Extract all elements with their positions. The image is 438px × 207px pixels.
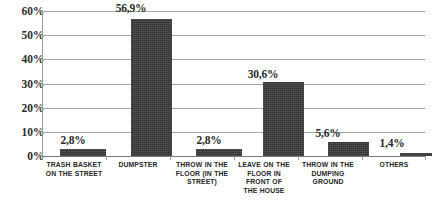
value-label-trash-basket: 2,8%: [41, 134, 105, 146]
y-axis-tick-label: 60%: [4, 5, 44, 17]
x-axis-tick: [42, 156, 43, 160]
y-axis-tick-label: 50%: [4, 29, 44, 41]
value-label-others: 1,4%: [360, 137, 424, 149]
bar-chart: 60% 50% 40% 30% 20% 10% 0% 2,8% 56,9% 2,…: [0, 0, 438, 207]
value-label-leave-on-the-floor: 30,6%: [231, 68, 295, 80]
gridline-30: [42, 84, 425, 85]
x-axis-tick: [425, 156, 426, 160]
y-axis-tick-label: 40%: [4, 53, 44, 65]
gridline-20: [42, 108, 425, 109]
bar-others: [400, 153, 432, 156]
value-label-dumpster: 56,9%: [99, 2, 163, 14]
category-label-throw-in-the-floor: THROW IN THE FLOOR (IN THE STREET): [172, 161, 232, 187]
x-axis-tick: [298, 156, 299, 160]
category-label-dumpster: DUMPSTER: [108, 161, 168, 170]
gridline-10: [42, 132, 425, 133]
bar-leave-on-the-floor-in-front-of-the-house: [263, 82, 304, 156]
y-axis-tick-label: 10%: [4, 126, 44, 138]
category-label-leave-on-the-floor: LEAVE ON THE FLOOR IN FRONT OF THE HOUSE: [238, 161, 290, 195]
x-axis-tick: [234, 156, 235, 160]
x-axis-tick: [106, 156, 107, 160]
y-axis-tick-label: 20%: [4, 102, 44, 114]
category-label-throw-in-the-dumping-ground: THROW IN THE DUMPING GROUND: [301, 161, 355, 187]
gridline-50: [42, 35, 425, 36]
y-axis-tick-label: 30%: [4, 78, 44, 90]
gridline-40: [42, 59, 425, 60]
value-label-throw-in-the-dumping-ground: 5,6%: [296, 127, 360, 139]
y-axis-tick-label: 0%: [4, 150, 44, 162]
bar-trash-basket-on-the-street: [60, 149, 106, 156]
bar-throw-in-the-floor-in-the-street: [196, 149, 242, 156]
value-label-throw-in-the-floor: 2,8%: [177, 134, 241, 146]
category-label-trash-basket: TRASH BASKET ON THE STREET: [44, 161, 104, 178]
x-axis-tick: [170, 156, 171, 160]
bar-dumpster: [131, 19, 172, 156]
category-label-others: OTHERS: [364, 161, 424, 170]
x-axis-tick: [362, 156, 363, 160]
